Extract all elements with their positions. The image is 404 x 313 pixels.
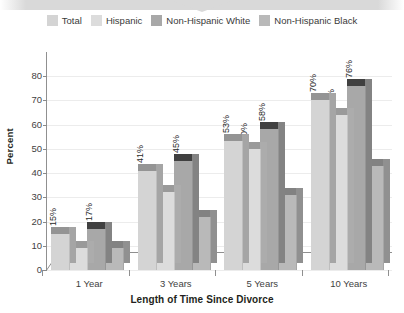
- y-tick-mark: [43, 149, 47, 150]
- y-tick-mark: [43, 197, 47, 198]
- bar-side-3d: [260, 142, 267, 263]
- x-tick-label: 5 Years: [219, 278, 306, 289]
- bar-side-3d: [87, 241, 94, 263]
- legend-swatch-icon: [259, 15, 270, 26]
- y-tick-label: 40: [16, 167, 42, 178]
- bar-side-3d: [174, 185, 181, 263]
- bar-face: [224, 141, 243, 270]
- x-tick-mark: [215, 270, 216, 276]
- top-banner: [0, 0, 404, 10]
- y-tick-mark: [43, 76, 47, 77]
- bar-side-3d: [347, 108, 354, 263]
- bar-side-3d: [192, 154, 199, 263]
- bar-face: [51, 234, 70, 270]
- y-tick-label: 80: [16, 70, 42, 81]
- banner-chevron-icon: [170, 0, 234, 12]
- bar-top-3d: [224, 134, 242, 141]
- bar-side-3d: [123, 241, 130, 263]
- legend-label: Total: [62, 16, 82, 26]
- bar-group-1: 22%45%32%41%: [138, 68, 210, 270]
- bar-value-label: 41%: [135, 145, 145, 163]
- bar-face: [138, 171, 157, 270]
- bar-side-3d: [69, 227, 76, 263]
- banner-right-fade: [378, 0, 404, 10]
- y-tick-mark: [43, 270, 47, 271]
- y-tick-label: 50: [16, 143, 42, 154]
- y-tick-label: 60: [16, 119, 42, 130]
- bar-group-0: 9%17%9%15%: [51, 68, 123, 270]
- legend-item-1[interactable]: Hispanic: [91, 15, 142, 26]
- x-axis-title: Length of Time Since Divorce: [0, 294, 404, 305]
- bar-side-3d: [210, 210, 217, 263]
- y-tick-label: 30: [16, 191, 42, 202]
- bar-side-3d: [242, 134, 249, 263]
- x-tick-label: 1 Year: [46, 278, 133, 289]
- bar-value-label: 17%: [84, 203, 94, 221]
- x-tick-mark: [388, 270, 389, 276]
- y-tick-label: 20: [16, 216, 42, 227]
- x-tick-label: 3 Years: [133, 278, 220, 289]
- banner-left-fade: [0, 0, 26, 10]
- x-tick-mark: [42, 270, 43, 276]
- plot-area: 010203040506070809%17%9%15%1 Year22%45%3…: [46, 50, 392, 278]
- x-tick-label: 10 Years: [306, 278, 393, 289]
- bar-top-3d: [138, 164, 156, 171]
- bar-side-3d: [156, 164, 163, 263]
- bar-chart: Percent 010203040506070809%17%9%15%1 Yea…: [0, 32, 404, 313]
- bar-value-label: 53%: [221, 115, 231, 133]
- bar-side-3d: [296, 188, 303, 263]
- y-tick-label: 0: [16, 264, 42, 275]
- bar-side-3d: [278, 122, 285, 263]
- bar-top-3d: [87, 222, 105, 229]
- legend-item-2[interactable]: Non-Hispanic White: [151, 15, 250, 26]
- bar-side-3d: [365, 79, 372, 263]
- chart-legend: TotalHispanicNon-Hispanic WhiteNon-Hispa…: [0, 15, 404, 26]
- gridline: [46, 270, 392, 271]
- legend-label: Non-Hispanic White: [166, 16, 250, 26]
- y-tick-label: 10: [16, 240, 42, 251]
- y-axis-title: Percent: [4, 151, 15, 165]
- bar-value-label: 70%: [308, 74, 318, 92]
- bar-value-label: 45%: [171, 135, 181, 153]
- y-tick-mark: [43, 222, 47, 223]
- y-tick-mark: [43, 100, 47, 101]
- legend-label: Non-Hispanic Black: [274, 16, 357, 26]
- bar-side-3d: [383, 159, 390, 263]
- x-tick-mark: [302, 270, 303, 276]
- bar-face: [311, 100, 330, 270]
- legend-label: Hispanic: [106, 16, 142, 26]
- legend-item-0[interactable]: Total: [47, 15, 82, 26]
- legend-swatch-icon: [91, 15, 102, 26]
- bar-top-3d: [51, 227, 69, 234]
- legend-item-3[interactable]: Non-Hispanic Black: [259, 15, 357, 26]
- y-tick-mark: [43, 246, 47, 247]
- y-tick-mark: [43, 173, 47, 174]
- bar-value-label: 58%: [257, 103, 267, 121]
- y-axis-line: [46, 52, 47, 270]
- legend-swatch-icon: [151, 15, 162, 26]
- y-tick-mark: [43, 125, 47, 126]
- bar-side-3d: [329, 93, 336, 263]
- legend-swatch-icon: [47, 15, 58, 26]
- bar-top-3d: [174, 154, 192, 161]
- x-tick-mark: [129, 270, 130, 276]
- bar-top-3d: [347, 79, 365, 86]
- bar-top-3d: [260, 122, 278, 129]
- bar-side-3d: [105, 222, 112, 263]
- bar-top-3d: [311, 93, 329, 100]
- bar-group-3: 43%76%64%70%: [311, 68, 383, 270]
- bar-value-label: 15%: [48, 208, 58, 226]
- bar-group-2: 31%58%50%53%: [224, 68, 296, 270]
- y-tick-label: 70: [16, 94, 42, 105]
- bar-value-label: 76%: [344, 60, 354, 78]
